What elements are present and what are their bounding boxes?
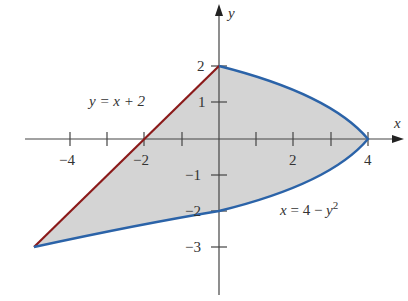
y-tick-label: −1: [185, 167, 201, 183]
x-tick-label: 4: [364, 152, 372, 168]
y-tick-label: −3: [185, 239, 201, 255]
parabola-equation-exp: 2: [333, 199, 339, 211]
y-tick-label: 1: [198, 94, 206, 110]
region-diagram: y x −4 −2 2 4 2 1 −1 −2 −3 y = x + 2 x =…: [0, 0, 408, 301]
x-tick-label: −2: [133, 152, 149, 168]
y-axis-arrow-icon: [215, 4, 223, 16]
x-tick-label: 2: [289, 152, 297, 168]
x-axis-arrow-icon: [392, 135, 404, 143]
parabola-equation-prefix: = 4 −: [287, 202, 326, 218]
line-equation-label: y = x + 2: [87, 93, 146, 109]
parabola-equation-label: x = 4 − y2: [279, 199, 338, 218]
x-axis-label: x: [393, 115, 401, 131]
y-tick-label: −2: [185, 203, 201, 219]
x-tick-label: −4: [59, 152, 75, 168]
parabola-equation-var: y: [324, 202, 333, 218]
y-tick-label: 2: [197, 58, 205, 74]
y-axis-label: y: [226, 5, 235, 21]
